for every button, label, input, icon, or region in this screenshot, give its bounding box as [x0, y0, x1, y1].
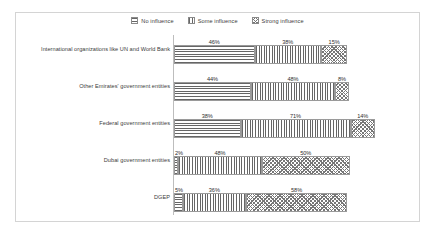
bar-segment-strong-influence: 15% — [321, 45, 347, 64]
legend-swatch-some-influence-icon — [188, 17, 195, 24]
stacked-bar-1: 44% 48% 8% — [174, 82, 349, 101]
bar-segment-some-influence: 48% — [251, 82, 335, 101]
bar-value-label: 48% — [214, 150, 225, 156]
legend-label-strong-influence: Strong influence — [262, 18, 304, 24]
bar-value-label: 15% — [329, 39, 340, 45]
legend-swatch-no-influence-icon — [131, 17, 138, 24]
table-row: Dubai government entities 2% 48% 50% — [16, 144, 419, 181]
legend-item-no-influence: No influence — [131, 17, 173, 24]
table-row: Federal government entities 38% 71% 14% — [16, 107, 419, 144]
legend-swatch-strong-influence-icon — [252, 17, 259, 24]
bar-segment-some-influence: 48% — [178, 156, 262, 175]
bar-value-label: 50% — [300, 150, 311, 156]
bar-value-label: 5% — [175, 187, 183, 193]
bar-segment-no-influence: 44% — [174, 82, 251, 101]
category-label-2: Federal government entities — [18, 120, 173, 126]
bar-value-label: 58% — [291, 187, 302, 193]
chart-frame: No influence Some influence Strong influ… — [15, 12, 420, 222]
bar-value-label: 48% — [287, 76, 298, 82]
legend-label-some-influence: Some influence — [198, 18, 238, 24]
bar-value-label: 36% — [209, 187, 220, 193]
category-label-3: Dubai government entities — [18, 157, 173, 163]
chart-legend: No influence Some influence Strong influ… — [16, 17, 419, 24]
bar-segment-some-influence: 71% — [241, 119, 351, 138]
bar-value-label: 8% — [338, 76, 346, 82]
legend-item-some-influence: Some influence — [188, 17, 238, 24]
bar-segment-some-influence: 36% — [183, 193, 246, 212]
bar-segment-no-influence: 38% — [174, 119, 241, 138]
bar-segment-no-influence: 5% — [174, 193, 183, 212]
bar-segment-strong-influence: 58% — [246, 193, 348, 212]
stacked-bar-4: 5% 36% 58% — [174, 193, 347, 212]
bar-segment-some-influence: 38% — [255, 45, 322, 64]
bar-value-label: 2% — [175, 150, 183, 156]
category-label-1: Other Emirates' government entities — [18, 83, 173, 89]
bar-segment-strong-influence: 14% — [351, 119, 376, 138]
table-row: Other Emirates' government entities 44% … — [16, 70, 419, 107]
plot-area: International organizations like UN and … — [16, 33, 419, 219]
bar-value-label: 14% — [357, 113, 368, 119]
legend-label-no-influence: No influence — [141, 18, 173, 24]
bar-segment-strong-influence: 50% — [262, 156, 350, 175]
bar-value-label: 71% — [290, 113, 301, 119]
table-row: International organizations like UN and … — [16, 33, 419, 70]
category-label-4: DGEP — [18, 194, 173, 200]
stacked-bar-2: 38% 71% 14% — [174, 119, 375, 138]
bar-value-label: 44% — [207, 76, 218, 82]
stacked-bar-3: 2% 48% 50% — [174, 156, 350, 175]
category-label-0: International organizations like UN and … — [18, 46, 173, 52]
legend-item-strong-influence: Strong influence — [252, 17, 304, 24]
bar-segment-strong-influence: 8% — [335, 82, 349, 101]
table-row: DGEP 5% 36% 58% — [16, 181, 419, 218]
bar-segment-no-influence: 46% — [174, 45, 255, 64]
stacked-bar-0: 46% 38% 15% — [174, 45, 347, 64]
bar-value-label: 38% — [202, 113, 213, 119]
bar-value-label: 46% — [209, 39, 220, 45]
bar-value-label: 38% — [282, 39, 293, 45]
